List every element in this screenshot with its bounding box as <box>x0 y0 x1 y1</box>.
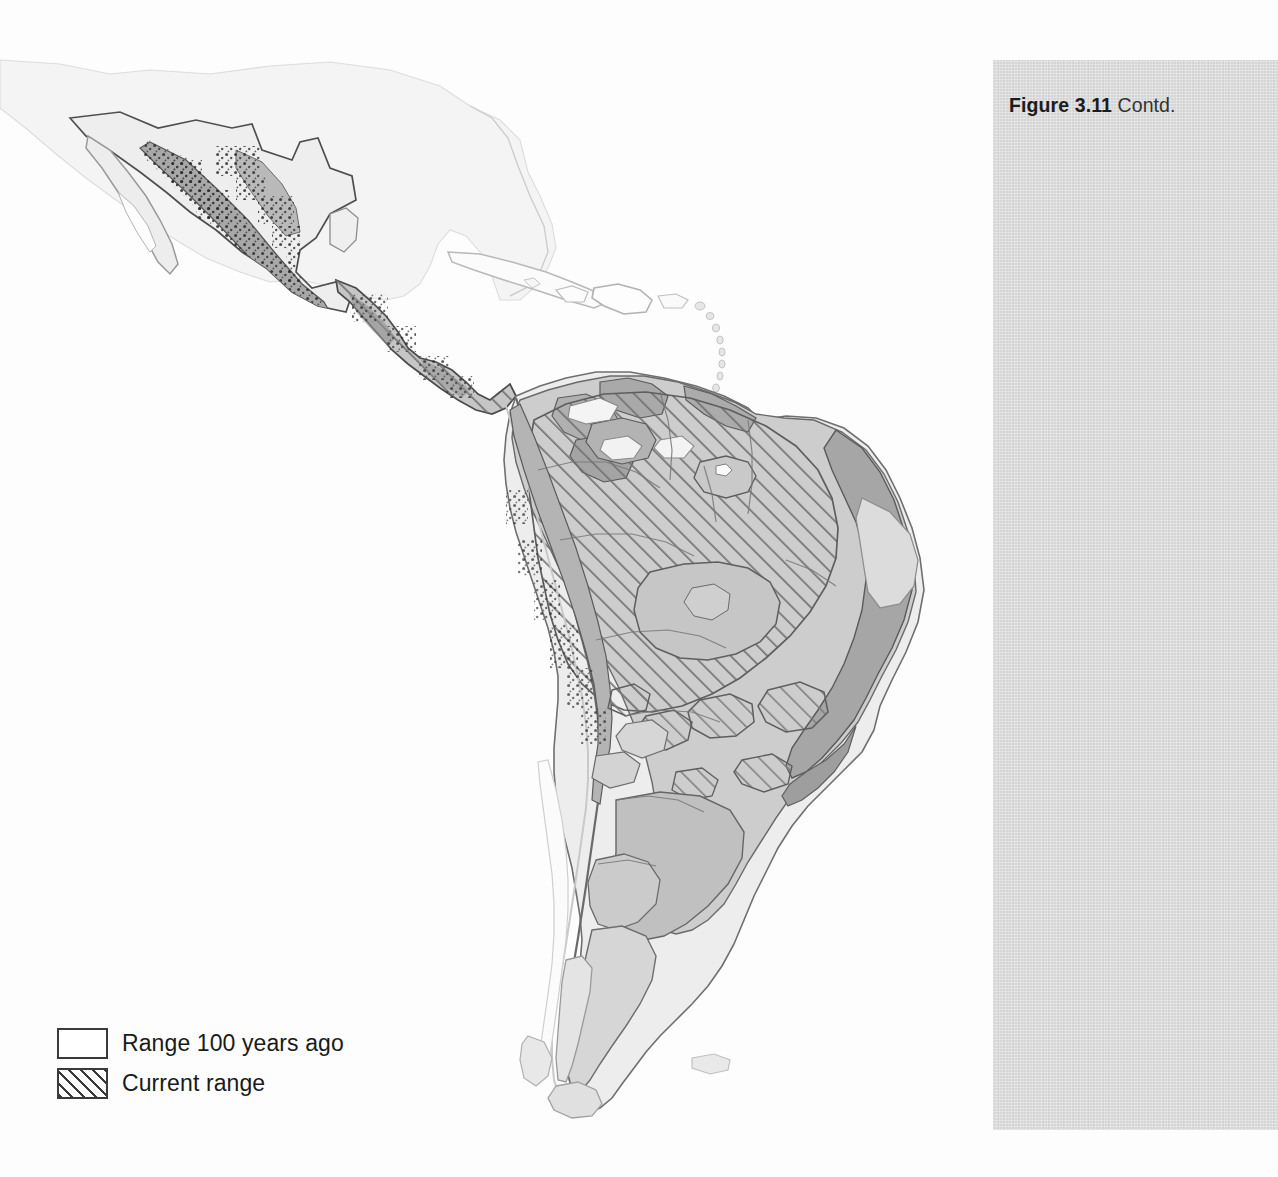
south-america-region <box>504 372 924 1118</box>
figure-number: Figure 3.11 <box>1009 94 1112 116</box>
legend-item-historic: Range 100 years ago <box>57 1028 344 1059</box>
legend-swatch-hatched-rectangle <box>57 1068 108 1099</box>
map-graphic <box>0 0 993 1177</box>
map-legend: Range 100 years ago Current range <box>57 1028 344 1099</box>
figure-continued-label: Contd. <box>1118 94 1176 116</box>
species-range-map <box>0 0 993 1177</box>
figure-page: Range 100 years ago Current range Figure… <box>0 0 1278 1177</box>
legend-label-historic: Range 100 years ago <box>122 1030 344 1057</box>
figure-caption-panel: Figure 3.11 Contd. <box>993 60 1278 1130</box>
central-america-region <box>336 280 516 414</box>
figure-caption: Figure 3.11 Contd. <box>1009 93 1268 118</box>
legend-swatch-open-rectangle <box>57 1028 108 1059</box>
legend-label-current: Current range <box>122 1070 265 1097</box>
caribbean-islands <box>448 252 725 392</box>
legend-item-current: Current range <box>57 1068 344 1099</box>
mexico-region <box>70 112 360 340</box>
paper-texture <box>993 60 1278 1130</box>
